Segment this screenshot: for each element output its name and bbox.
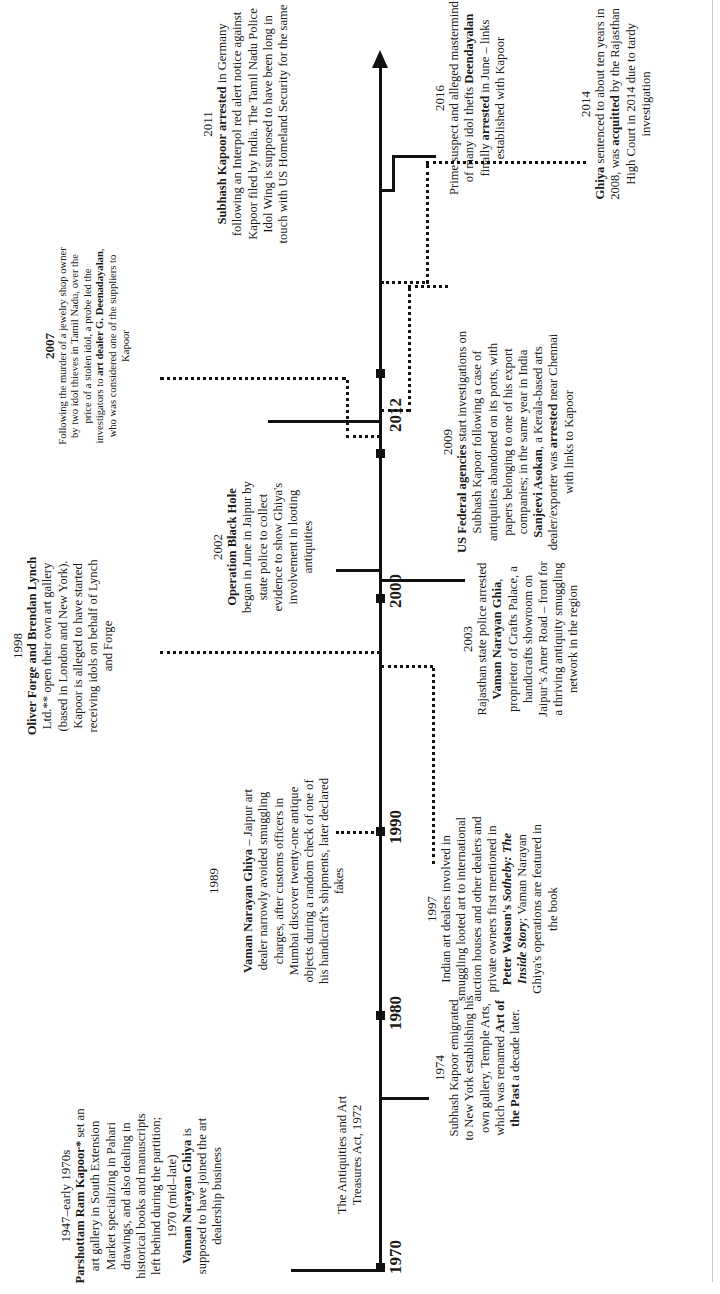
connector-1974 <box>381 1098 429 1101</box>
event-text: US Federal agencies start investigations… <box>455 331 575 553</box>
event-text: Following the murder of a jewelry shop o… <box>57 247 131 444</box>
connector-2003 <box>381 580 465 583</box>
event-2009: 2009 US Federal agencies start investiga… <box>440 326 577 558</box>
connector-2016-c <box>392 156 436 159</box>
tick-label-1990: 1990 <box>386 810 406 844</box>
event-text: Subhash Kapoor emigrated to New York est… <box>447 995 522 1140</box>
event-text: The Antiquities and Art Treasures Act, 1… <box>335 1096 364 1215</box>
connector-2009-c <box>408 285 448 288</box>
event-text: Vaman Narayan Ghiya – Jaipur art dealer … <box>241 778 346 984</box>
event-year: 2009 <box>440 326 455 558</box>
event-1947: 1947–early 1970s Parshottam Ram Kapoor* … <box>58 1108 225 1284</box>
connector-2009-a <box>381 409 409 412</box>
event-year: 2011 <box>200 4 215 244</box>
event-text: Subhash Kapoor arrested in Germany follo… <box>215 5 290 244</box>
event-2002: 2002 Operation Black Hole began in June … <box>210 478 316 616</box>
tick-2012-b <box>376 369 385 378</box>
event-2014: 2014 Ghiya sentenced to about ten years … <box>578 4 654 204</box>
timeline-axis <box>379 64 382 1272</box>
connector-2014-b <box>426 164 429 284</box>
event-text: Rajasthan state police arrested Vaman Na… <box>475 561 580 716</box>
event-1997: 1997 Indian art dealers involved in smug… <box>424 816 561 1002</box>
event-1974: 1974 Subhash Kapoor emigrated to New Yor… <box>432 994 523 1142</box>
event-2016: 2016 Prime suspect and alleged mastermin… <box>432 0 508 196</box>
event-year: 2002 <box>210 478 225 616</box>
tick-2012-a <box>376 449 385 458</box>
event-2007: 2007 Following the murder of a jewelry s… <box>44 246 132 446</box>
event-2011: 2011 Subhash Kapoor arrested in Germany … <box>200 4 291 244</box>
event-year: 2007 <box>44 246 57 446</box>
connector-2011 <box>268 421 380 424</box>
event-year: 2014 <box>578 4 593 204</box>
event-text: Indian art dealers involved in smuggling… <box>439 817 559 1002</box>
event-year: 1974 <box>432 994 447 1142</box>
event-text: Oliver Forge and Brendan Lynch Ltd.** op… <box>25 557 115 736</box>
connector-1998 <box>160 651 380 654</box>
connector-2002 <box>336 570 380 573</box>
connector-2016-b <box>392 156 395 192</box>
connector-2009-b <box>408 288 411 412</box>
event-year: 1998 <box>10 556 25 736</box>
connector-1997-v <box>381 665 433 668</box>
event-1998: 1998 Oliver Forge and Brendan Lynch Ltd.… <box>10 556 116 736</box>
tick-label-2012: 2012 <box>386 398 406 432</box>
arrowhead-icon <box>372 50 388 68</box>
connector-2007-b <box>346 380 349 438</box>
event-text-secondary: Vaman Narayan Ghiya is supposed to have … <box>180 1118 224 1274</box>
connector-2007-c <box>160 377 346 380</box>
tick-2000 <box>376 594 385 603</box>
connector-2007-a <box>346 435 380 438</box>
event-year: 1989 <box>206 776 221 986</box>
tick-1980 <box>376 1011 385 1020</box>
event-year: 2003 <box>460 560 475 718</box>
tick-label-1980: 1980 <box>386 996 406 1030</box>
timeline-diagram: 1970 1980 1990 2000 2012 1947–early 1970… <box>0 0 720 1294</box>
event-year-secondary: 1970 (mid–late) <box>164 1108 179 1284</box>
event-year: 2016 <box>432 0 447 196</box>
event-text: Prime suspect and alleged mastermind of … <box>447 1 507 195</box>
event-year: 1997 <box>424 816 439 1002</box>
connector-2014-a <box>381 281 425 284</box>
tick-label-1970: 1970 <box>386 1240 406 1274</box>
event-text: Operation Black Hole began in June in Ja… <box>225 481 315 613</box>
event-text: Parshottam Ram Kapoor* set an art galler… <box>73 1109 163 1284</box>
event-1989: 1989 Vaman Narayan Ghiya – Jaipur art de… <box>206 776 348 986</box>
event-1972: The Antiquities and Art Treasures Act, 1… <box>335 1076 365 1234</box>
event-2003: 2003 Rajasthan state police arrested Vam… <box>460 560 582 718</box>
event-text: Ghiya sentenced to about ten years in 20… <box>593 8 653 200</box>
event-year: 1947–early 1970s <box>58 1108 73 1284</box>
connector-1947 <box>291 1270 381 1273</box>
